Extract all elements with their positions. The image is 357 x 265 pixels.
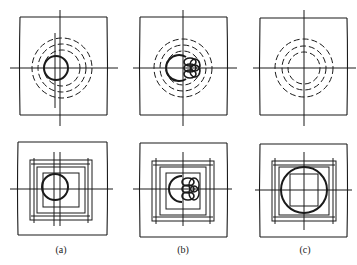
panel-a-bottom xyxy=(10,142,113,235)
panel-label-b: (b) xyxy=(168,244,198,255)
diagram-canvas xyxy=(0,0,357,265)
panel-c-bottom xyxy=(255,144,352,237)
panel-label-c: (c) xyxy=(290,244,320,255)
panel-c-top xyxy=(253,10,356,126)
panel-b-top xyxy=(133,10,237,126)
panel-b-bottom xyxy=(133,143,232,237)
panel-a-top xyxy=(10,10,118,126)
panel-label-a: (a) xyxy=(46,244,76,255)
